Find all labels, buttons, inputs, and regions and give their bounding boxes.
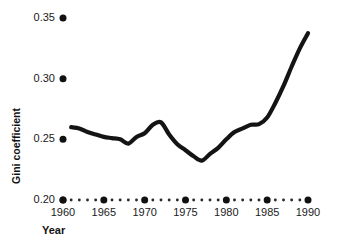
x-minor-tick-dot [78,199,81,202]
x-minor-tick-dot [241,199,244,202]
x-minor-tick-dot [111,199,114,202]
x-minor-tick-dot [192,199,195,202]
x-major-tick-dot [100,197,107,204]
x-axis-major-tick-dots [60,197,312,204]
x-major-tick-dot [264,197,271,204]
y-tick-dot [60,75,67,82]
gini-coefficient-line-chart: 0.200.250.300.35 19601965197019751980198… [0,0,338,249]
x-tick-label: 1965 [84,206,124,218]
x-minor-tick-dot [258,199,261,202]
x-minor-tick-dot [176,199,179,202]
y-tick-label: 0.30 [21,72,55,84]
x-minor-tick-dot [249,199,252,202]
x-tick-label: 1970 [125,206,165,218]
x-minor-tick-dot [274,199,277,202]
x-major-tick-dot [305,197,312,204]
x-minor-tick-dot [282,199,285,202]
x-major-tick-dot [141,197,148,204]
x-minor-tick-dot [200,199,203,202]
x-major-tick-dot [182,197,189,204]
x-minor-tick-dot [209,199,212,202]
x-minor-tick-dot [94,199,97,202]
y-axis-title: Gini coefficient [10,101,22,191]
x-minor-tick-dot [127,199,130,202]
x-minor-tick-dot [298,199,301,202]
x-tick-label: 1975 [166,206,206,218]
x-minor-tick-dot [86,199,89,202]
x-tick-label: 1990 [288,206,328,218]
x-minor-tick-dot [160,199,163,202]
x-minor-tick-dot [217,199,220,202]
x-minor-tick-dot [119,199,122,202]
y-tick-label: 0.25 [21,132,55,144]
x-minor-tick-dot [233,199,236,202]
y-tick-dot [60,15,67,22]
x-tick-label: 1985 [247,206,287,218]
x-minor-tick-dot [168,199,171,202]
y-axis-tick-dots [60,15,67,204]
x-tick-label: 1960 [43,206,83,218]
y-tick-label: 0.20 [21,193,55,205]
gini-trend-line [71,33,308,160]
x-axis-title: Year [42,224,65,236]
x-minor-tick-dot [151,199,154,202]
x-minor-tick-dot [70,199,73,202]
x-tick-label: 1980 [206,206,246,218]
y-tick-label: 0.35 [21,11,55,23]
y-tick-dot [60,136,67,143]
x-minor-tick-dot [135,199,138,202]
y-tick-dot [60,197,67,204]
x-major-tick-dot [223,197,230,204]
x-minor-tick-dot [290,199,293,202]
